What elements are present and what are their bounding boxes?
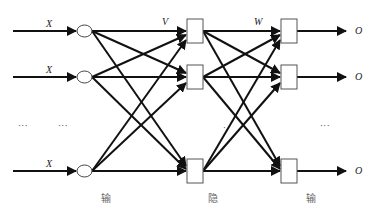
input-label: X	[46, 19, 52, 29]
weight-label-v: V	[162, 17, 168, 27]
output-label: O	[355, 72, 362, 82]
hidden-output-connections	[203, 31, 280, 171]
input-node	[77, 165, 92, 177]
input-label: X	[46, 65, 52, 75]
ellipsis: ···	[58, 122, 68, 131]
ellipsis: ···	[18, 122, 28, 131]
input-layer-nodes	[77, 25, 92, 177]
output-label: O	[355, 166, 362, 176]
hidden-node	[187, 19, 203, 43]
input-label: X	[46, 159, 52, 169]
output-label: O	[355, 26, 362, 36]
weight-label-w: W	[254, 17, 262, 27]
output-node	[281, 19, 297, 43]
layer-label-input: 输	[101, 194, 111, 204]
neural-network-diagram	[0, 0, 374, 214]
output-node	[281, 159, 297, 183]
input-node	[77, 25, 92, 37]
output-layer-nodes	[281, 19, 297, 183]
input-arrows	[13, 31, 76, 171]
hidden-layer-nodes	[187, 19, 203, 183]
layer-label-output: 输	[306, 194, 316, 204]
ellipsis: ···	[320, 122, 330, 131]
layer-label-hidden: 隐	[208, 194, 218, 204]
input-hidden-connections	[92, 31, 186, 171]
input-node	[77, 71, 92, 83]
output-arrows	[297, 31, 346, 171]
hidden-node	[187, 159, 203, 183]
ellipsis: ·	[223, 124, 226, 133]
hidden-node	[187, 65, 203, 89]
output-node	[281, 65, 297, 89]
